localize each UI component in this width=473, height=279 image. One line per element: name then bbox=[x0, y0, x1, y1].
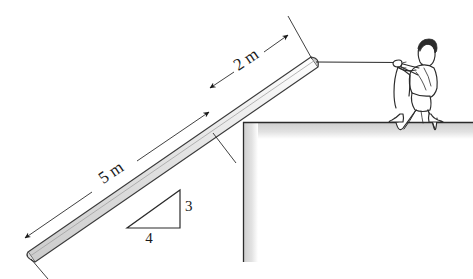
ground-shading bbox=[243, 123, 473, 139]
slope-triangle: 3 4 bbox=[127, 190, 193, 246]
person-shoe-front bbox=[389, 114, 404, 122]
slope-triangle-shape bbox=[127, 190, 180, 228]
plank-highlight bbox=[31, 61, 315, 256]
label-slope-run: 4 bbox=[145, 230, 153, 246]
label-slope-rise: 3 bbox=[185, 198, 193, 214]
rope-line bbox=[316, 62, 400, 63]
person-leg-separation bbox=[421, 111, 423, 123]
wall-shading bbox=[244, 123, 258, 262]
diagram-canvas: 5 m 2 m 3 4 bbox=[0, 0, 473, 279]
extension-line-mid bbox=[213, 133, 236, 163]
label-2m: 2 m bbox=[230, 44, 262, 74]
person-shorts bbox=[411, 93, 431, 112]
person-hand-front bbox=[393, 60, 402, 67]
extension-line-bottom bbox=[31, 259, 48, 279]
dimension-line-2m-lower bbox=[210, 72, 234, 88]
person-figure bbox=[389, 39, 443, 130]
physics-diagram-figure: 5 m 2 m 3 4 bbox=[0, 0, 473, 279]
inclined-plank bbox=[27, 57, 318, 262]
ledge-structure bbox=[243, 122, 473, 262]
extension-line-top bbox=[288, 16, 312, 59]
label-5m: 5 m bbox=[95, 157, 127, 187]
person-back-line bbox=[394, 67, 398, 108]
dimension-line-2m-upper bbox=[264, 35, 288, 52]
